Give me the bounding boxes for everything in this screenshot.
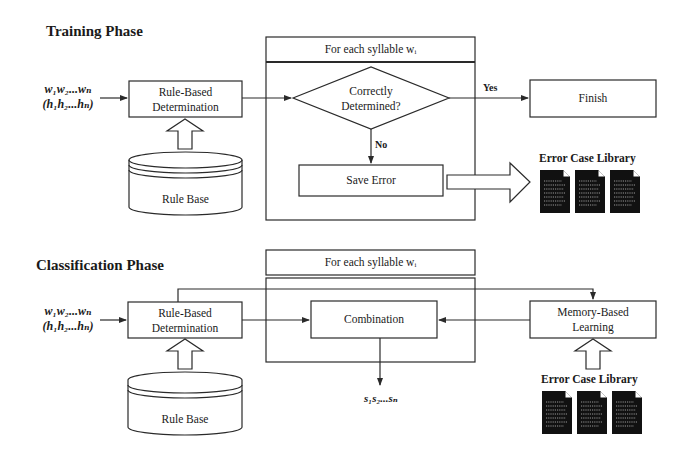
combination-label: Combination bbox=[311, 312, 437, 327]
training-phase-title: Training Phase bbox=[46, 23, 143, 40]
classification-phase-title: Classification Phase bbox=[36, 257, 164, 274]
loop-header-2: For each syllable wᵢ bbox=[266, 255, 475, 270]
input-tags: (h₁h₂...hₙ) bbox=[32, 97, 104, 112]
to-library-arrow bbox=[447, 163, 530, 202]
rule-base-label-2: Rule Base bbox=[128, 412, 242, 427]
rule-based-line2: Determination bbox=[129, 100, 242, 115]
rule-based-line1-2: Rule-Based bbox=[128, 306, 242, 321]
decision-line1: Correctly bbox=[293, 84, 449, 99]
rule-based-label: Rule-Based Determination bbox=[129, 85, 242, 115]
input-words: w₁w₂...wₙ bbox=[32, 82, 104, 97]
rule-based-label-2: Rule-Based Determination bbox=[128, 306, 242, 336]
output-sequence: s₁s₂...sₙ bbox=[346, 391, 416, 406]
yes-label: Yes bbox=[483, 82, 497, 93]
rule-based-line2-2: Determination bbox=[128, 321, 242, 336]
rule-base-up-arrow bbox=[167, 119, 203, 149]
finish-label: Finish bbox=[530, 91, 656, 106]
input-tags-2: (h₁h₂...hₙ) bbox=[32, 319, 104, 334]
rule-based-line1: Rule-Based bbox=[129, 85, 242, 100]
input-words-2: w₁w₂...wₙ bbox=[32, 304, 104, 319]
error-case-library-label: Error Case Library bbox=[539, 152, 636, 164]
decision-line2: Determined? bbox=[293, 99, 449, 114]
memory-line2: Learning bbox=[530, 320, 656, 335]
classification-input: w₁w₂...wₙ (h₁h₂...hₙ) bbox=[32, 304, 104, 334]
memory-line1: Memory-Based bbox=[530, 305, 656, 320]
save-error-label: Save Error bbox=[299, 173, 443, 188]
error-case-library-label-2: Error Case Library bbox=[541, 373, 638, 385]
loop-header: For each syllable wᵢ bbox=[266, 42, 475, 57]
decision-label: Correctly Determined? bbox=[293, 84, 449, 114]
rule-base-label: Rule Base bbox=[129, 192, 242, 207]
no-label: No bbox=[375, 139, 387, 150]
training-input: w₁w₂...wₙ (h₁h₂...hₙ) bbox=[32, 82, 104, 112]
memory-label: Memory-Based Learning bbox=[530, 305, 656, 335]
